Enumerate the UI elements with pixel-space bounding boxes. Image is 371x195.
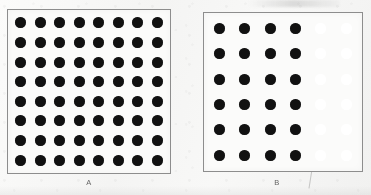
panel-b-dot-r4c3 [265,99,276,110]
panel-b-dot-r2c6 [341,48,352,59]
panel-a-dot-r8c2 [35,155,46,166]
panel-a-dot-grid [11,13,167,170]
panel-a-dot-r6c4 [74,115,85,126]
panel-a-dot-r1c1 [15,17,26,28]
panel-a-dot-r7c4 [74,135,85,146]
scan-smudge [248,0,340,7]
panel-b-dot-r4c6 [341,99,352,110]
panel-b-dot-r6c5 [315,150,326,161]
panel-a-dot-r2c7 [132,37,143,48]
panel-a-dot-r3c3 [54,57,65,68]
panel-a-dot-r8c4 [74,155,85,166]
panel-b-dot-r6c1 [214,150,225,161]
panel-a-dot-r1c2 [35,17,46,28]
panel-b-dot-r4c1 [214,99,225,110]
panel-b-dot-r5c2 [239,124,250,135]
panel-a-dot-r2c4 [74,37,85,48]
panel-a-label: A [79,178,99,187]
panel-a-dot-r4c5 [93,76,104,87]
figure-canvas: A B [0,0,371,195]
panel-a-dot-r8c6 [113,155,124,166]
panel-a-dot-r3c8 [152,57,163,68]
panel-a-dot-r7c1 [15,135,26,146]
panel-a-dot-r4c1 [15,76,26,87]
panel-a-dot-r5c8 [152,96,163,107]
panel-a-dot-r8c7 [132,155,143,166]
panel-a-dot-r5c6 [113,96,124,107]
panel-a-dot-r2c8 [152,37,163,48]
panel-a-dot-r5c7 [132,96,143,107]
panel-a-dot-r3c5 [93,57,104,68]
panel-a-dot-r4c6 [113,76,124,87]
panel-b-dot-r4c2 [239,99,250,110]
panel-b-dot-r5c1 [214,124,225,135]
panel-a-dot-r1c7 [132,17,143,28]
panel-a-dot-r6c2 [35,115,46,126]
panel-a-dot-r5c1 [15,96,26,107]
panel-a-dot-r3c4 [74,57,85,68]
panel-a-dot-r8c8 [152,155,163,166]
panel-b-dot-r1c1 [214,23,225,34]
panel-b-dot-r1c5 [315,23,326,34]
panel-b-dot-r3c2 [239,74,250,85]
panel-a-dot-r1c8 [152,17,163,28]
panel-a-dot-r6c3 [54,115,65,126]
panel-b-dot-r6c6 [341,150,352,161]
panel-b-dot-r3c4 [290,74,301,85]
panel-a-dot-r5c3 [54,96,65,107]
panel-b-dot-r3c1 [214,74,225,85]
panel-b-dot-r6c3 [265,150,276,161]
panel-a-dot-r3c7 [132,57,143,68]
panel-a [7,9,171,174]
panel-b-dot-r2c3 [265,48,276,59]
panel-b-dot-r1c4 [290,23,301,34]
panel-a-dot-r5c2 [35,96,46,107]
panel-a-dot-r2c6 [113,37,124,48]
panel-a-dot-r2c1 [15,37,26,48]
panel-a-dot-r7c5 [93,135,104,146]
panel-a-dot-r6c6 [113,115,124,126]
page-edge-shade [0,186,371,195]
panel-a-dot-r3c1 [15,57,26,68]
panel-a-dot-r8c3 [54,155,65,166]
panel-a-dot-r8c5 [93,155,104,166]
panel-b-dot-r1c6 [341,23,352,34]
panel-a-dot-r4c3 [54,76,65,87]
panel-b-dot-r1c3 [265,23,276,34]
panel-b-dot-r3c6 [341,74,352,85]
panel-b-dot-r5c6 [341,124,352,135]
panel-a-dot-r2c2 [35,37,46,48]
panel-a-dot-r3c6 [113,57,124,68]
panel-a-dot-r1c4 [74,17,85,28]
panel-b-dot-r1c2 [239,23,250,34]
panel-b-dot-r5c4 [290,124,301,135]
panel-a-dot-r6c7 [132,115,143,126]
panel-a-dot-r7c8 [152,135,163,146]
panel-a-dot-r4c2 [35,76,46,87]
panel-b-dot-r2c2 [239,48,250,59]
panel-a-dot-r3c2 [35,57,46,68]
panel-a-dot-r4c4 [74,76,85,87]
panel-b-dot-r2c4 [290,48,301,59]
panel-b-dot-r6c4 [290,150,301,161]
panel-a-dot-r7c7 [132,135,143,146]
panel-b-dot-grid [207,16,359,168]
panel-a-dot-r2c3 [54,37,65,48]
panel-a-dot-r1c3 [54,17,65,28]
panel-a-dot-r1c6 [113,17,124,28]
panel-a-dot-r4c7 [132,76,143,87]
panel-b-dot-r3c3 [265,74,276,85]
panel-b-dot-r6c2 [239,150,250,161]
panel-a-dot-r8c1 [15,155,26,166]
panel-b-dot-r5c5 [315,124,326,135]
panel-b-dot-r5c3 [265,124,276,135]
panel-a-dot-r4c8 [152,76,163,87]
panel-a-dot-r7c2 [35,135,46,146]
panel-a-dot-r7c3 [54,135,65,146]
panel-a-dot-r7c6 [113,135,124,146]
panel-a-dot-r6c1 [15,115,26,126]
panel-b-dot-r4c5 [315,99,326,110]
panel-a-dot-r6c5 [93,115,104,126]
panel-b-dot-r2c5 [315,48,326,59]
panel-b-dot-r4c4 [290,99,301,110]
